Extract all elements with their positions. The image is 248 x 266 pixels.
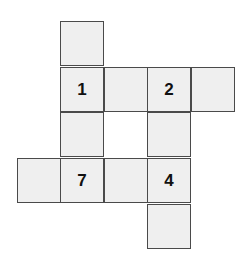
cell-number: 7: [77, 171, 86, 191]
grid-cell-empty[interactable]: [60, 21, 104, 66]
cell-number: 2: [164, 80, 173, 100]
grid-cell-1[interactable]: 1: [60, 67, 104, 112]
grid-cell-empty[interactable]: [147, 112, 191, 157]
grid-cell-empty[interactable]: [191, 67, 235, 112]
grid-cell-empty[interactable]: [104, 67, 148, 112]
grid-cell-empty[interactable]: [60, 112, 104, 157]
grid-cell-empty[interactable]: [17, 158, 61, 203]
grid-cell-4[interactable]: 4: [147, 158, 191, 203]
grid-cell-empty[interactable]: [104, 158, 148, 203]
cell-number: 4: [164, 171, 173, 191]
grid-cell-2[interactable]: 2: [147, 67, 191, 112]
grid-cell-7[interactable]: 7: [60, 158, 104, 203]
cell-number: 1: [77, 80, 86, 100]
puzzle-grid: 1274: [0, 0, 248, 266]
grid-cell-empty[interactable]: [147, 204, 191, 249]
